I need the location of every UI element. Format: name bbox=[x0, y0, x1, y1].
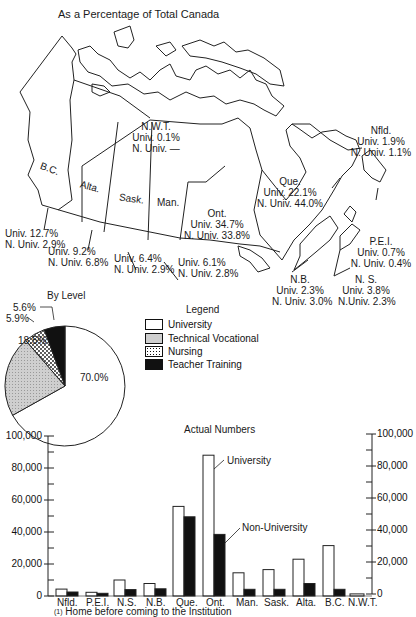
label-man-name: Man. bbox=[157, 197, 179, 208]
label-man: Univ. 6.1% N. Univ. 2.8% bbox=[178, 257, 238, 279]
swatch-technical bbox=[145, 333, 163, 344]
swatch-university bbox=[145, 319, 163, 330]
univ-pct: Univ. 0.1% bbox=[126, 132, 186, 143]
univ-pct: Univ. 34.7% bbox=[184, 219, 250, 230]
annotation-non-university: Non-University bbox=[242, 522, 308, 533]
y-tick-right: 20,000 bbox=[377, 557, 408, 567]
nuniv-pct: N. Univ. 2.8% bbox=[178, 268, 238, 279]
y-tick-left: 20,000 bbox=[11, 559, 42, 569]
label-pei: P.E.I. Univ. 0.7% N. Univ. 0.4% bbox=[350, 236, 412, 269]
province-name: N.W.T. bbox=[126, 121, 186, 132]
label-que: Que. Univ. 22.1% N. Univ. 44.0% bbox=[257, 176, 323, 209]
swatch-nursing bbox=[145, 346, 163, 357]
y-tick-right: 40,000 bbox=[377, 525, 408, 535]
y-tick-left: 60,000 bbox=[11, 495, 42, 505]
province-name: Nfld. bbox=[346, 125, 416, 136]
label-sask: Univ. 6.4% N. Univ. 2.9% bbox=[114, 253, 174, 275]
province-name: P.E.I. bbox=[350, 236, 412, 247]
province-name: Que. bbox=[257, 176, 323, 187]
y-tick-right: 0 bbox=[377, 589, 383, 599]
pie-label-teacher: 5.6% bbox=[13, 302, 36, 313]
nuniv-pct: N. Univ. — bbox=[126, 143, 186, 154]
footnote-text: Home before coming to the Institution bbox=[65, 606, 231, 617]
y-tick-left: 0 bbox=[36, 591, 42, 601]
pie-label-technical: 18.5% bbox=[18, 335, 46, 346]
pie-label-nursing: 5.9% bbox=[6, 313, 29, 324]
nuniv-pct: N. Univ. 3.0% bbox=[272, 296, 328, 307]
univ-pct: Univ. 3.8% bbox=[338, 285, 394, 296]
bar-chart-title: Actual Numbers bbox=[184, 424, 255, 435]
label-ont: Ont. Univ. 34.7% N. Univ. 33.8% bbox=[184, 208, 250, 241]
x-label: B.C. bbox=[325, 597, 344, 608]
label-nwt: N.W.T. Univ. 0.1% N. Univ. — bbox=[126, 121, 186, 154]
footnote: (1) Home before coming to the Institutio… bbox=[54, 606, 232, 617]
univ-pct: Univ. 0.7% bbox=[350, 247, 412, 258]
nuniv-pct: N. Univ. 1.1% bbox=[346, 147, 416, 158]
y-tick-left: 80,000 bbox=[11, 463, 42, 473]
univ-pct: Univ. 2.3% bbox=[272, 285, 328, 296]
legend-title: Legend bbox=[186, 304, 219, 315]
x-label: Alta. bbox=[296, 597, 316, 608]
label-alta: Univ. 9.2% N. Univ. 6.8% bbox=[48, 246, 108, 268]
univ-pct: Univ. 9.2% bbox=[48, 246, 108, 257]
province-name: Ont. bbox=[184, 208, 250, 219]
y-tick-right: 100,000 bbox=[377, 429, 413, 439]
pie-title: By Level bbox=[47, 290, 85, 301]
univ-pct: Univ. 12.7% bbox=[5, 228, 65, 239]
y-tick-right: 80,000 bbox=[377, 461, 408, 471]
province-name: N.B. bbox=[272, 274, 328, 285]
nuniv-pct: N. Univ. 0.4% bbox=[350, 258, 412, 269]
univ-pct: Univ. 1.9% bbox=[346, 136, 416, 147]
univ-pct: Univ. 22.1% bbox=[257, 187, 323, 198]
nuniv-pct: N.Univ. 2.3% bbox=[338, 296, 394, 307]
nuniv-pct: N. Univ. 6.8% bbox=[48, 257, 108, 268]
y-tick-right: 60,000 bbox=[377, 493, 408, 503]
nuniv-pct: N. Univ. 33.8% bbox=[184, 230, 250, 241]
swatch-teacher bbox=[145, 359, 163, 370]
x-label: Man. bbox=[236, 597, 258, 608]
y-tick-left: 100,000 bbox=[6, 431, 42, 441]
label-nfld: Nfld. Univ. 1.9% N. Univ. 1.1% bbox=[346, 125, 416, 158]
univ-pct: Univ. 6.4% bbox=[114, 253, 174, 264]
nuniv-pct: N. Univ. 44.0% bbox=[257, 198, 323, 209]
univ-pct: Univ. 6.1% bbox=[178, 257, 238, 268]
province-name: N. S. bbox=[338, 274, 394, 285]
x-label: N.W.T. bbox=[348, 597, 377, 608]
nuniv-pct: N. Univ. 2.9% bbox=[114, 264, 174, 275]
x-label: Sask. bbox=[264, 597, 289, 608]
label-ns: N. S. Univ. 3.8% N.Univ. 2.3% bbox=[338, 274, 394, 307]
annotation-university: University bbox=[227, 455, 271, 466]
y-tick-left: 40,000 bbox=[11, 527, 42, 537]
label-nb: N.B. Univ. 2.3% N. Univ. 3.0% bbox=[272, 274, 328, 307]
footnote-mark: (1) bbox=[54, 608, 63, 615]
pie-label-university: 70.0% bbox=[80, 372, 108, 383]
